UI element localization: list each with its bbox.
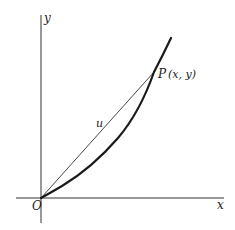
point-p-coords: (x, y) bbox=[168, 68, 196, 81]
point-p-name: P bbox=[157, 67, 167, 81]
diagram-canvas: y x O u P (x, y) bbox=[0, 0, 235, 230]
chord-label: u bbox=[96, 117, 103, 130]
y-axis-label: y bbox=[43, 11, 51, 25]
curve bbox=[41, 38, 171, 198]
x-axis-label: x bbox=[217, 198, 224, 212]
origin-label: O bbox=[32, 199, 42, 213]
chord-u bbox=[41, 72, 154, 198]
